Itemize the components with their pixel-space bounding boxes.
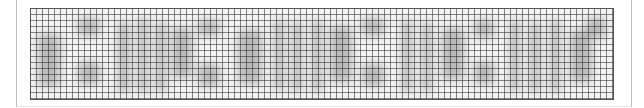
captcha-image bbox=[30, 8, 614, 100]
captcha-grid-border bbox=[30, 8, 614, 100]
